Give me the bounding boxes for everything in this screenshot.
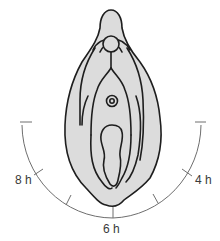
tick-8h [34,169,43,175]
tick-5h [153,194,158,203]
clock-position-diagram: 8 h 6 h 4 h [0,0,220,241]
glans-circle [103,36,119,52]
label-8h: 8 h [15,174,32,186]
tick-7h [66,195,71,205]
anatomy-illustration [0,0,220,241]
label-6h: 6 h [103,223,120,235]
outline-shape [65,10,161,206]
label-4h: 4 h [195,174,212,186]
